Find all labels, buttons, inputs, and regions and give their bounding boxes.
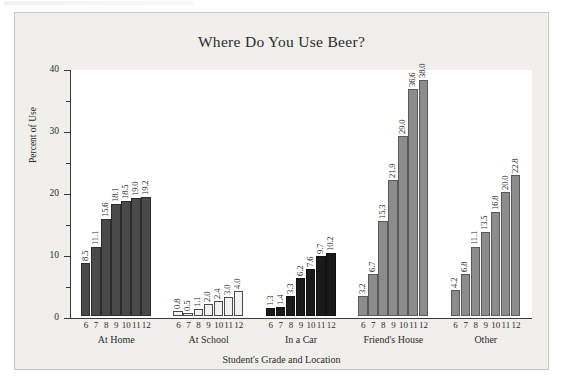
bar-value-label: 15.3 bbox=[377, 205, 387, 219]
bar-value-label: 15.6 bbox=[99, 203, 109, 217]
bar: 10.2 bbox=[326, 253, 335, 316]
bar: 2.4 bbox=[214, 301, 223, 316]
bar: 16.8 bbox=[491, 212, 500, 316]
bar: 4.2 bbox=[451, 290, 460, 316]
y-tick-minor bbox=[66, 163, 70, 164]
figure-frame: Where Do You Use Beer? 010203040 Percent… bbox=[14, 12, 549, 370]
bar-value-label: 1.4 bbox=[274, 295, 284, 305]
bar-value-label: 4.0 bbox=[232, 279, 242, 289]
bar: 1.3 bbox=[266, 308, 275, 316]
bar: 18.5 bbox=[121, 201, 130, 316]
bar: 18.1 bbox=[111, 204, 120, 316]
bar-value-label: 6.7 bbox=[367, 262, 377, 272]
bar: 15.3 bbox=[378, 221, 387, 316]
bar: 11.1 bbox=[471, 247, 480, 316]
bar-value-label: 38.0 bbox=[417, 64, 427, 78]
bar: 22.8 bbox=[511, 175, 520, 316]
bar: 11.1 bbox=[91, 247, 100, 316]
bar: 6.7 bbox=[368, 274, 377, 316]
bar: 9.7 bbox=[316, 256, 325, 316]
x-axis-line bbox=[70, 318, 532, 319]
bar-value-label: 19.0 bbox=[130, 182, 140, 196]
bar-value-label: 9.7 bbox=[314, 244, 324, 254]
bar: 3.0 bbox=[224, 297, 233, 316]
bar: 1.4 bbox=[276, 307, 285, 316]
scan-artifact bbox=[4, 1, 194, 5]
bar: 36.6 bbox=[408, 89, 417, 316]
bar-value-label: 22.8 bbox=[509, 158, 519, 172]
bar: 6.8 bbox=[461, 274, 470, 316]
bar-value-label: 3.2 bbox=[357, 284, 367, 294]
bar-value-label: 3.3 bbox=[284, 283, 294, 293]
bar-value-label: 29.0 bbox=[397, 120, 407, 134]
grade-tick-label: 12 bbox=[417, 320, 431, 330]
grade-tick-label: 12 bbox=[324, 320, 338, 330]
y-tick-major bbox=[64, 132, 70, 133]
bar: 0.5 bbox=[183, 313, 192, 316]
y-tick-minor bbox=[66, 287, 70, 288]
bar-value-label: 16.8 bbox=[489, 195, 499, 209]
bar-value-label: 20.0 bbox=[499, 176, 509, 190]
bar-value-label: 0.5 bbox=[182, 301, 192, 311]
y-axis-line bbox=[70, 70, 71, 319]
group-label: At Home bbox=[70, 334, 162, 345]
y-tick-minor bbox=[66, 225, 70, 226]
group-label: At School bbox=[162, 334, 254, 345]
y-axis-title: Percent of Use bbox=[28, 107, 38, 163]
bar-value-label: 6.2 bbox=[294, 265, 304, 275]
bar: 38.0 bbox=[419, 80, 428, 316]
y-tick-label: 40 bbox=[35, 64, 59, 74]
y-tick-major bbox=[64, 194, 70, 195]
bar: 7.6 bbox=[306, 269, 315, 316]
bar-value-label: 3.0 bbox=[222, 285, 232, 295]
bar-value-label: 36.6 bbox=[407, 73, 417, 87]
bar: 21.9 bbox=[388, 180, 397, 316]
grade-tick-label: 12 bbox=[139, 320, 153, 330]
bar-value-label: 0.8 bbox=[172, 299, 182, 309]
grade-tick-label: 12 bbox=[232, 320, 246, 330]
bar-value-label: 19.2 bbox=[140, 180, 150, 194]
x-axis-title: Student's Grade and Location bbox=[15, 354, 548, 365]
bar: 3.3 bbox=[286, 296, 295, 316]
y-tick-major bbox=[64, 70, 70, 71]
group-label: In a Car bbox=[255, 334, 347, 345]
bar: 0.8 bbox=[173, 311, 182, 316]
bar: 19.2 bbox=[141, 197, 150, 316]
bar: 20.0 bbox=[501, 192, 510, 316]
bar-value-label: 6.8 bbox=[459, 262, 469, 272]
bar: 29.0 bbox=[398, 136, 407, 316]
bar-value-label: 8.5 bbox=[79, 251, 89, 261]
bar-value-label: 10.2 bbox=[324, 236, 334, 250]
bar-value-label: 21.9 bbox=[387, 164, 397, 178]
y-tick-major bbox=[64, 256, 70, 257]
y-tick-label: 30 bbox=[35, 126, 59, 136]
group-label: Other bbox=[440, 334, 532, 345]
chart-title: Where Do You Use Beer? bbox=[15, 33, 548, 51]
bar-value-label: 11.1 bbox=[89, 231, 99, 245]
bar: 6.2 bbox=[296, 278, 305, 316]
bar-value-label: 2.0 bbox=[202, 291, 212, 301]
grade-tick-label: 12 bbox=[509, 320, 523, 330]
bar: 13.5 bbox=[481, 232, 490, 316]
bar-value-label: 4.2 bbox=[449, 278, 459, 288]
bar-value-label: 1.1 bbox=[192, 297, 202, 307]
bar: 8.5 bbox=[81, 263, 90, 316]
bar: 2.0 bbox=[204, 304, 213, 316]
bar-value-label: 11.1 bbox=[469, 231, 479, 245]
bar-value-label: 7.6 bbox=[304, 257, 314, 267]
y-tick-label: 20 bbox=[35, 188, 59, 198]
bar: 3.2 bbox=[358, 296, 367, 316]
bar: 19.0 bbox=[131, 198, 140, 316]
bar: 15.6 bbox=[101, 219, 110, 316]
group-label: Friend's House bbox=[347, 334, 439, 345]
bar-value-label: 2.4 bbox=[212, 289, 222, 299]
bar-value-label: 18.1 bbox=[109, 187, 119, 201]
y-tick-label: 10 bbox=[35, 250, 59, 260]
y-tick-minor bbox=[66, 101, 70, 102]
y-tick-label: 0 bbox=[35, 312, 59, 322]
bar-value-label: 1.3 bbox=[264, 296, 274, 306]
y-tick-major bbox=[64, 318, 70, 319]
bar: 1.1 bbox=[194, 309, 203, 316]
bar-value-label: 18.5 bbox=[120, 185, 130, 199]
bar: 4.0 bbox=[234, 291, 243, 316]
